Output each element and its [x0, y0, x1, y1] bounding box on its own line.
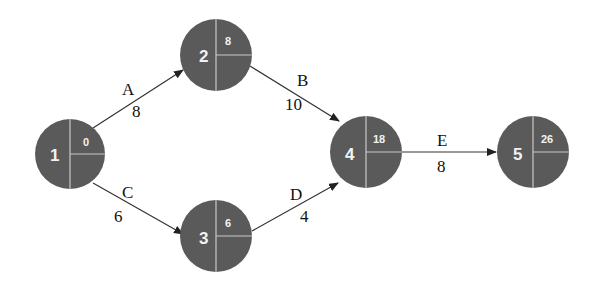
node-id: 3 — [199, 229, 208, 248]
node-earliest-time: 26 — [541, 133, 553, 145]
node-id: 5 — [513, 145, 522, 164]
edge-duration-label: 8 — [132, 102, 141, 121]
node-earliest-time: 0 — [83, 136, 89, 148]
network-diagram: A 8 B 10 C 6 D 4 E 8 1 0 2 8 — [0, 0, 603, 292]
edge-duration-label: 4 — [300, 207, 309, 226]
node-5: 5 26 — [497, 116, 569, 188]
edge-duration-label: 8 — [437, 157, 446, 176]
edge-duration-label: 6 — [114, 207, 123, 226]
edge-d: D 4 — [252, 183, 338, 231]
node-earliest-time: 18 — [373, 133, 385, 145]
edge-activity-label: A — [122, 80, 135, 99]
node-2: 2 8 — [180, 19, 252, 91]
edge-activity-label: B — [297, 71, 308, 90]
node-1: 1 0 — [35, 119, 105, 189]
arrow-icon — [93, 183, 183, 234]
node-id: 2 — [199, 47, 208, 66]
edge-a: A 8 — [93, 70, 183, 128]
edge-duration-label: 10 — [285, 95, 302, 114]
node-3: 3 6 — [180, 200, 252, 272]
node-id: 1 — [50, 146, 59, 165]
edge-c: C 6 — [93, 183, 183, 234]
edge-activity-label: E — [437, 131, 447, 150]
edge-activity-label: C — [122, 183, 133, 202]
node-earliest-time: 6 — [225, 217, 231, 229]
edge-activity-label: D — [290, 185, 302, 204]
node-4: 4 18 — [330, 116, 402, 188]
edge-b: B 10 — [250, 66, 339, 121]
node-id: 4 — [345, 145, 355, 164]
node-earliest-time: 8 — [225, 35, 231, 47]
edge-e: E 8 — [402, 131, 496, 176]
